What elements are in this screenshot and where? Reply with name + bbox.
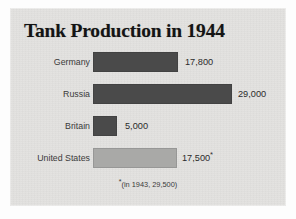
bar-russia [93, 84, 232, 104]
chart-footnote: *(in 1943, 29,500) [10, 178, 286, 189]
category-label-united-states: United States [10, 148, 90, 168]
chart-panel: Tank Production in 1944 Germany 17,800 R… [10, 8, 286, 206]
chart-figure: Tank Production in 1944 Germany 17,800 R… [0, 0, 296, 219]
value-label-britain: 5,000 [125, 116, 148, 136]
value-label-germany: 17,800 [185, 52, 213, 72]
value-label-united-states: 17,500* [182, 148, 213, 168]
bar-germany [93, 52, 178, 72]
category-label-germany: Germany [10, 52, 90, 72]
bar-row: United States 17,500* [10, 148, 286, 168]
footnote-text: (in 1943, 29,500) [121, 180, 177, 189]
category-label-russia: Russia [10, 84, 90, 104]
bar-row: Germany 17,800 [10, 52, 286, 72]
footnote-marker-united-states: * [210, 150, 213, 159]
chart-title: Tank Production in 1944 [24, 20, 225, 42]
bar-united-states [93, 148, 177, 168]
value-label-russia: 29,000 [238, 84, 266, 104]
bar-britain [93, 116, 117, 136]
category-label-britain: Britain [10, 116, 90, 136]
bar-row: Britain 5,000 [10, 116, 286, 136]
bar-plot-area: Germany 17,800 Russia 29,000 Britain 5,0… [10, 52, 286, 172]
bar-row: Russia 29,000 [10, 84, 286, 104]
